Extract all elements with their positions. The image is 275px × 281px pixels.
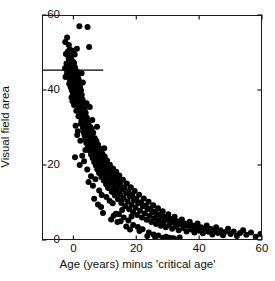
x-tick-label: 20 [130, 243, 143, 255]
x-tick-label: 0 [70, 243, 76, 255]
y-tick-label: 20 [47, 159, 60, 171]
x-axis-title: Age (years) minus 'critical age' [0, 259, 275, 271]
x-tick-label: 40 [193, 243, 206, 255]
y-tick-label: 40 [47, 84, 60, 96]
y-tick-label: 0 [54, 234, 60, 246]
scatter-plot-figure: 0204060 0204060 Age (years) minus 'criti… [0, 0, 275, 281]
y-tick-label: 60 [47, 9, 60, 21]
plot-axes-frame [42, 15, 262, 240]
x-tick-label: 60 [256, 243, 269, 255]
y-axis-title: Visual field area [0, 57, 12, 197]
